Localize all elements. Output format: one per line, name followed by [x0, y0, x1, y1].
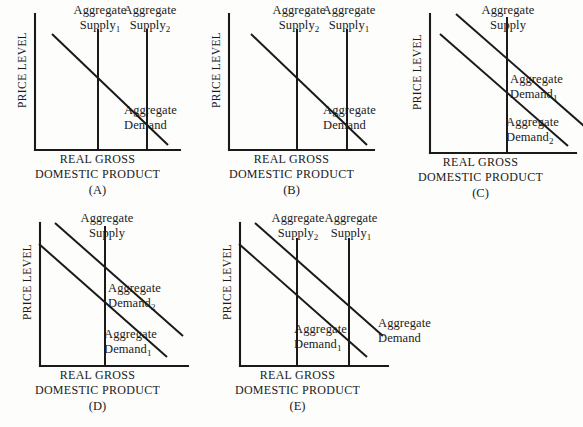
panel-e-ad1-label-line2: Demand [294, 337, 337, 351]
panel-e: PRICE LEVEL Aggregate Supply2 Aggregate … [210, 208, 470, 427]
panel-a-ad-label-line1: Aggregate [124, 103, 177, 117]
panel-d-ad1-subscript: 1 [147, 348, 152, 358]
panel-b-caption: (B) [194, 183, 389, 198]
panel-b-y-axis-label: PRICE LEVEL [210, 32, 222, 108]
panel-c-ad1-label-line1: Aggregate [510, 72, 563, 86]
panel-a: PRICE LEVEL Aggregate Supply1 Aggregate … [0, 0, 195, 205]
panel-a-as2-label-line1: Aggregate [124, 3, 177, 17]
panel-b-ad-label-line1: Aggregate [323, 103, 376, 117]
panel-d-caption: (D) [0, 399, 195, 414]
panel-c-ad2-label-line1: Aggregate [506, 115, 559, 129]
panel-c-ad2-label: Aggregate Demand2 [506, 115, 559, 148]
panel-d-ad2-subscript: 2 [151, 302, 156, 312]
panel-e-as2-label-line2: Supply [278, 226, 314, 240]
panel-c-as-label-line1: Aggregate [482, 3, 535, 17]
panel-a-y-axis-label: PRICE LEVEL [16, 32, 28, 108]
panel-d-ad1-label-line1: Aggregate [104, 327, 157, 341]
panel-c-caption: (C) [383, 186, 578, 201]
panel-d: PRICE LEVEL Aggregate Supply Aggregate D… [10, 208, 205, 427]
panel-b-as1-label: Aggregate Supply1 [309, 3, 389, 36]
panel-e-y-axis-label: PRICE LEVEL [221, 244, 233, 320]
panel-e-ad1-label: Aggregate Demand1 [294, 322, 347, 355]
panel-a-as2-label-line2: Supply [130, 18, 166, 32]
panel-e-as1-subscript: 1 [367, 232, 372, 242]
panel-d-ad1-label-line2: Demand [104, 342, 147, 356]
panel-a-x-axis-label: REAL GROSS DOMESTIC PRODUCT [0, 152, 195, 181]
panel-e-ad1-subscript: 1 [337, 343, 342, 353]
panel-c: PRICE LEVEL Aggregate Supply Aggregate D… [388, 0, 583, 205]
panel-e-as1-label-line2: Supply [331, 226, 367, 240]
panel-a-x-axis-label-line2: DOMESTIC PRODUCT [35, 167, 160, 181]
panel-d-x-axis-label-line1: REAL GROSS [60, 368, 136, 382]
panel-d-x-axis-label: REAL GROSS DOMESTIC PRODUCT [0, 368, 195, 397]
panel-c-x-axis-label-line1: REAL GROSS [443, 155, 519, 169]
panel-a-as2-label: Aggregate Supply2 [110, 3, 190, 36]
panel-c-as-label: Aggregate Supply [468, 3, 548, 32]
panel-c-as-label-line2: Supply [490, 18, 526, 32]
panel-c-x-axis-label: REAL GROSS DOMESTIC PRODUCT [383, 155, 578, 184]
panel-b-as1-label-line1: Aggregate [323, 3, 376, 17]
panel-a-x-axis-label-line1: REAL GROSS [60, 152, 136, 166]
panel-a-caption: (A) [0, 183, 195, 198]
panel-b-x-axis-label: REAL GROSS DOMESTIC PRODUCT [194, 152, 389, 181]
panel-c-y-axis-label: PRICE LEVEL [411, 34, 423, 110]
panel-b: PRICE LEVEL Aggregate Supply2 Aggregate … [194, 0, 389, 205]
panel-d-as-label: Aggregate Supply [67, 211, 147, 240]
panel-b-x-axis-label-line1: REAL GROSS [254, 152, 330, 166]
figure-root: PRICE LEVEL Aggregate Supply1 Aggregate … [0, 0, 583, 427]
panel-e-as1-label-line1: Aggregate [325, 211, 378, 225]
panel-e-ad-label-line2: Demand [378, 331, 421, 345]
panel-b-as1-subscript: 1 [365, 24, 370, 34]
panel-b-x-axis-label-line2: DOMESTIC PRODUCT [229, 167, 354, 181]
panel-d-ad2-label-line2: Demand [108, 296, 151, 310]
panel-d-x-axis-label-line2: DOMESTIC PRODUCT [35, 383, 160, 397]
panel-a-ad-label-line2: Demand [124, 118, 167, 132]
panel-e-ad-label: Aggregate Demand [378, 316, 431, 345]
panel-e-ad1-label-line1: Aggregate [294, 322, 347, 336]
panel-a-ad-label: Aggregate Demand [124, 103, 177, 132]
panel-c-ad1-subscript: 1 [553, 93, 558, 103]
panel-c-ad1-label-line2: Demand [510, 87, 553, 101]
panel-b-as1-label-line2: Supply [329, 18, 365, 32]
panel-c-x-axis-label-line2: DOMESTIC PRODUCT [418, 170, 543, 184]
panel-e-caption: (E) [200, 399, 395, 414]
panel-d-y-axis-label: PRICE LEVEL [21, 244, 33, 320]
panel-d-ad2-label: Aggregate Demand2 [108, 281, 161, 314]
panel-d-as-label-line1: Aggregate [81, 211, 134, 225]
panel-a-as2-subscript: 2 [166, 24, 171, 34]
panel-e-x-axis-label-line1: REAL GROSS [260, 368, 336, 382]
panel-e-x-axis-label-line2: DOMESTIC PRODUCT [235, 383, 360, 397]
panel-d-ad2-label-line1: Aggregate [108, 281, 161, 295]
panel-e-ad-label-line1: Aggregate [378, 316, 431, 330]
panel-e-as1-label: Aggregate Supply1 [311, 211, 391, 244]
panel-e-x-axis-label: REAL GROSS DOMESTIC PRODUCT [200, 368, 395, 397]
panel-c-ad2-label-line2: Demand [506, 130, 549, 144]
panel-b-ad-label-line2: Demand [323, 118, 366, 132]
panel-d-as-label-line2: Supply [89, 226, 125, 240]
panel-d-ad1-label: Aggregate Demand1 [104, 327, 157, 360]
panel-b-ad-label: Aggregate Demand [323, 103, 376, 132]
panel-c-ad2-subscript: 2 [549, 136, 554, 146]
panel-c-ad1-label: Aggregate Demand1 [510, 72, 563, 105]
